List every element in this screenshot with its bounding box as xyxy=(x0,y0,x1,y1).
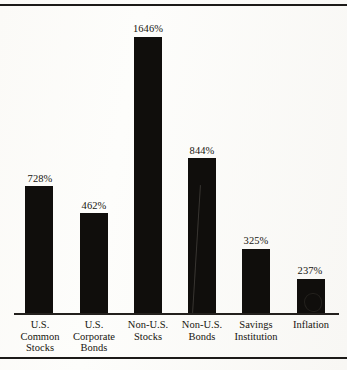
bar-chart-plot-area: 728% U.S. Common Stocks 462% U.S. Corpor… xyxy=(0,10,347,355)
bar-value-4: 325% xyxy=(227,235,285,246)
bar-label-5: Inflation xyxy=(276,319,346,331)
bar-5[interactable] xyxy=(297,279,325,313)
bar-0[interactable] xyxy=(25,186,53,313)
bar-value-2: 1646% xyxy=(119,23,177,34)
bar-4[interactable] xyxy=(242,249,270,313)
bar-1[interactable] xyxy=(80,213,108,313)
bar-label-1-line-2: Bonds xyxy=(59,342,129,354)
bar-3[interactable] xyxy=(188,158,216,313)
top-horizontal-rule xyxy=(0,4,347,6)
bar-value-3: 844% xyxy=(173,145,231,156)
bar-2[interactable] xyxy=(134,37,162,313)
bottom-horizontal-rule xyxy=(0,357,347,359)
bar-value-1: 462% xyxy=(66,200,122,211)
bar-value-0: 728% xyxy=(12,173,68,184)
bar-value-5: 237% xyxy=(281,265,339,276)
x-axis-baseline xyxy=(14,313,339,315)
bar-label-4-line-1: Institution xyxy=(218,331,294,343)
chart-page: 728% U.S. Common Stocks 462% U.S. Corpor… xyxy=(0,0,347,370)
bar-label-5-line-0: Inflation xyxy=(276,319,346,331)
